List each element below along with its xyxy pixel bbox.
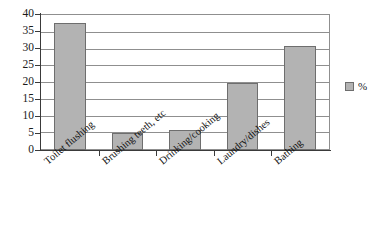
- y-axis-tick-20: [35, 82, 40, 83]
- y-axis-label-40: 40: [4, 8, 34, 20]
- y-axis-tick-35: [35, 31, 40, 32]
- y-axis-tick-5: [35, 133, 40, 134]
- y-axis-label-0: 0: [4, 144, 34, 156]
- x-axis-tick-3: [214, 151, 215, 156]
- x-axis-tick-2: [156, 151, 157, 156]
- y-axis-label-35: 35: [4, 25, 34, 37]
- y-axis-label-5: 5: [4, 127, 34, 139]
- bar-bathing: [284, 46, 316, 150]
- x-axis-tick-4: [271, 151, 272, 156]
- y-axis-tick-15: [35, 99, 40, 100]
- y-axis-label-10: 10: [4, 110, 34, 122]
- y-axis-label-15: 15: [4, 93, 34, 105]
- bar-chart-figure: 0510152025303540 Toilet flushingBrushing…: [0, 0, 390, 238]
- x-axis-tick-1: [99, 151, 100, 156]
- y-axis-label-20: 20: [4, 76, 34, 88]
- y-axis-tick-40: [35, 14, 40, 15]
- y-axis-label-30: 30: [4, 42, 34, 54]
- y-axis-tick-30: [35, 48, 40, 49]
- y-axis-label-25: 25: [4, 59, 34, 71]
- y-axis-tick-10: [35, 116, 40, 117]
- y-axis-tick-25: [35, 65, 40, 66]
- legend-swatch-icon: [345, 82, 354, 91]
- chart-legend: %: [345, 81, 367, 92]
- legend-entry-label: %: [358, 81, 367, 92]
